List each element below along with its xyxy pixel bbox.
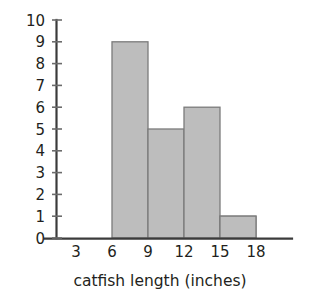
y-tick-label-5: 5 (35, 121, 45, 139)
x-tick-label-3: 3 (71, 243, 81, 261)
x-axis-title: catfish length (inches) (73, 272, 246, 290)
bar-3-6 (112, 42, 148, 238)
x-axis-tick-labels: 3 6 9 12 15 18 (71, 243, 265, 261)
histogram-chart: 10 9 8 7 6 5 4 3 2 1 0 3 6 9 12 15 18 ca… (0, 0, 309, 304)
x-tick-label-9: 9 (143, 243, 153, 261)
y-tick-label-6: 6 (35, 99, 45, 117)
y-tick-label-4: 4 (35, 142, 45, 160)
x-tick-label-15: 15 (210, 243, 229, 261)
bar-9-12 (184, 107, 220, 238)
x-tick-label-18: 18 (246, 243, 265, 261)
y-tick-label-0: 0 (35, 230, 45, 248)
y-axis-tick-labels: 10 9 8 7 6 5 4 3 2 1 0 (26, 12, 45, 248)
bar-series (112, 42, 256, 238)
y-tick-label-1: 1 (35, 208, 45, 226)
y-tick-label-7: 7 (35, 77, 45, 95)
x-tick-label-12: 12 (174, 243, 193, 261)
y-tick-label-9: 9 (35, 33, 45, 51)
bar-6-9 (148, 129, 184, 238)
x-tick-label-6: 6 (107, 243, 117, 261)
bar-15-18 (220, 216, 256, 238)
y-tick-label-8: 8 (35, 55, 45, 73)
y-tick-label-10: 10 (26, 12, 45, 30)
chart-canvas: 10 9 8 7 6 5 4 3 2 1 0 3 6 9 12 15 18 ca… (0, 0, 309, 304)
y-tick-label-2: 2 (35, 186, 45, 204)
y-tick-label-3: 3 (35, 164, 45, 182)
